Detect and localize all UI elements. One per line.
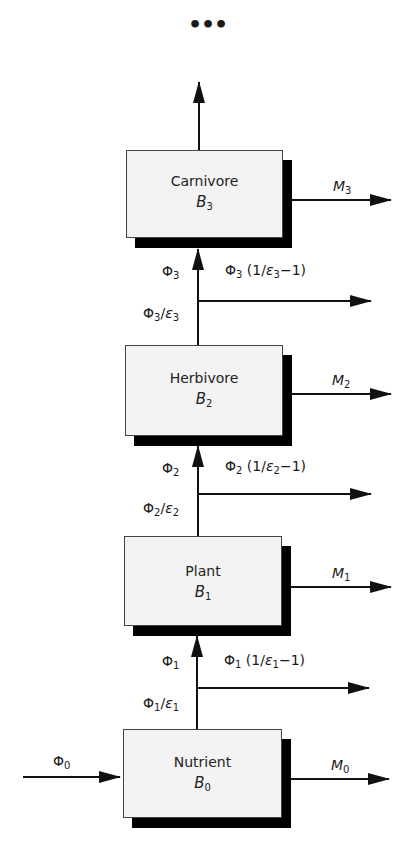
label-waste1: Φ1 (1/ε1−1) <box>224 652 305 668</box>
box-label: Carnivore <box>127 173 282 189</box>
box-symbol: B0 <box>124 774 281 792</box>
label-phi3-over-eps3: Φ3/ε3 <box>143 305 179 321</box>
label-m1: M1 <box>332 565 350 581</box>
label-waste2: Φ2 (1/ε2−1) <box>225 458 306 474</box>
box-symbol: B3 <box>127 193 282 211</box>
label-waste3: Φ3 (1/ε3−1) <box>225 262 306 278</box>
box-plant: Plant B1 <box>124 536 282 626</box>
box-label: Herbivore <box>126 370 282 386</box>
label-phi2-over-eps2: Φ2/ε2 <box>143 500 179 516</box>
label-m3: M3 <box>333 178 351 194</box>
box-label: Nutrient <box>124 754 281 770</box>
box-label: Plant <box>125 563 281 579</box>
box-symbol: B1 <box>125 583 281 601</box>
box-nutrient: Nutrient B0 <box>123 729 282 818</box>
box-carnivore: Carnivore B3 <box>126 150 283 238</box>
box-symbol: B2 <box>126 390 282 408</box>
label-phi2: Φ2 <box>162 460 179 476</box>
label-m2: M2 <box>332 372 350 388</box>
label-phi1-over-eps1: Φ1/ε1 <box>143 695 179 711</box>
label-phi1: Φ1 <box>162 653 179 669</box>
label-m0: M0 <box>331 757 349 773</box>
continuation-dots: ••• <box>188 12 227 37</box>
label-phi0: Φ0 <box>53 753 70 769</box>
box-herbivore: Herbivore B2 <box>125 345 283 436</box>
label-phi3: Φ3 <box>162 263 179 279</box>
